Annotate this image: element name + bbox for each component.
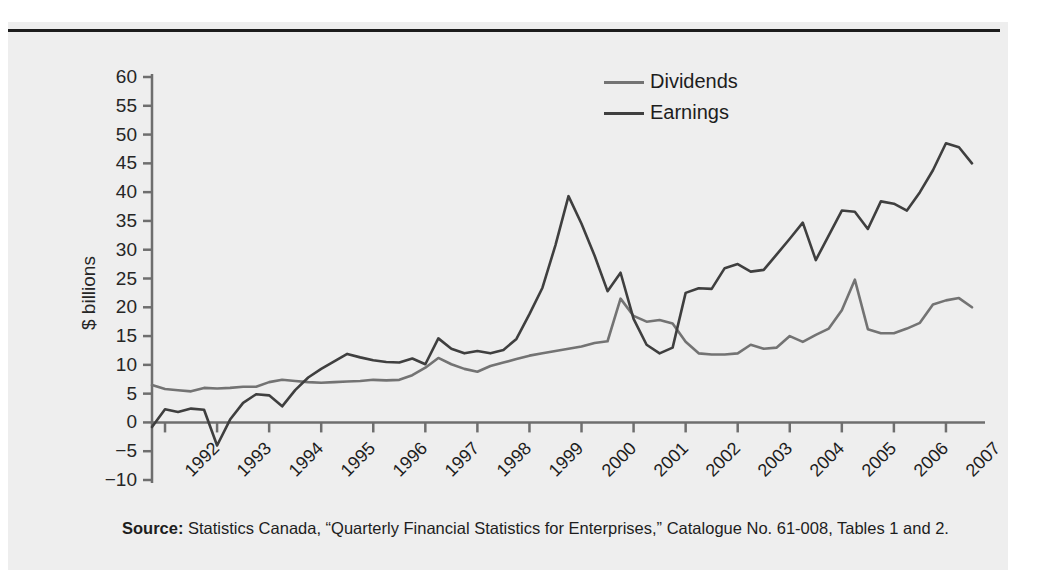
legend-swatch-earnings xyxy=(604,112,644,115)
legend-swatch-dividends xyxy=(604,81,644,84)
figure-container: 605550454035302520151050−5−10 $ billions… xyxy=(0,0,1048,584)
y-axis-tick-label: 35 xyxy=(91,211,137,230)
y-axis-tick-label: 60 xyxy=(91,67,137,86)
plot-area xyxy=(0,0,1048,584)
y-axis-tick-label: −5 xyxy=(91,441,137,460)
legend-label-dividends: Dividends xyxy=(650,70,738,93)
y-axis-tick-label: 45 xyxy=(91,153,137,172)
source-label: Source: xyxy=(122,519,183,537)
source-text: Statistics Canada, “Quarterly Financial … xyxy=(183,519,949,537)
y-axis-tick-label: −10 xyxy=(91,470,137,489)
series-line-dividends xyxy=(152,280,972,392)
y-axis-tick-label: 5 xyxy=(91,384,137,403)
source-note: Source: Statistics Canada, “Quarterly Fi… xyxy=(122,519,949,538)
y-axis-tick-label: 55 xyxy=(91,96,137,115)
y-axis-title: $ billions xyxy=(78,256,100,330)
y-axis-tick-label: 50 xyxy=(91,125,137,144)
line-chart xyxy=(0,0,1048,584)
y-axis-tick-label: 10 xyxy=(91,355,137,374)
y-axis-tick-label: 40 xyxy=(91,182,137,201)
legend-label-earnings: Earnings xyxy=(650,101,729,124)
y-axis-tick-label: 0 xyxy=(91,412,137,431)
